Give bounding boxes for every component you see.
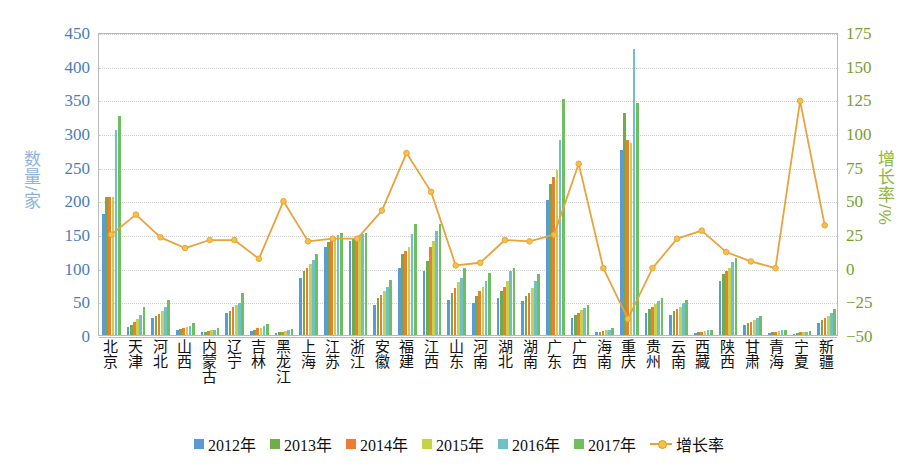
growth-rate-polyline — [111, 101, 824, 319]
y-axis-right-ticks: 1751501251007550250−25−50 — [846, 0, 906, 472]
growth-rate-point-福建 — [404, 150, 410, 156]
x-axis-labels: 北京天津河北山西内蒙古辽宁吉林黑龙江上海江苏浙江安徽福建江西山东河南湖北湖南广东… — [98, 339, 838, 429]
growth-rate-point-重庆 — [625, 316, 631, 322]
x-axis-label-青海: 青海 — [769, 339, 784, 369]
y-right-tick-0: 175 — [846, 25, 906, 42]
legend-swatch-icon — [346, 439, 356, 449]
y-left-tick-4: 250 — [40, 160, 90, 177]
growth-rate-point-广西 — [576, 161, 582, 167]
legend-line-marker-icon — [650, 439, 672, 449]
chart-canvas: 数量/家 增长率/% 450400350300250200150100500 1… — [0, 0, 918, 472]
legend-item-2017年[interactable]: 2017年 — [574, 432, 636, 456]
y-left-tick-3: 300 — [40, 126, 90, 143]
x-axis-label-福建: 福建 — [399, 339, 414, 369]
growth-rate-point-海南 — [601, 265, 607, 271]
y-left-tick-5: 200 — [40, 193, 90, 210]
growth-rate-point-宁夏 — [797, 98, 803, 104]
growth-rate-point-河南 — [478, 260, 484, 266]
legend-item-2016年[interactable]: 2016年 — [498, 432, 560, 456]
growth-rate-point-辽宁 — [232, 237, 238, 243]
x-axis-label-江西: 江西 — [424, 339, 439, 369]
x-axis-label-安徽: 安徽 — [374, 339, 389, 369]
y-left-tick-7: 100 — [40, 261, 90, 278]
gridline — [99, 337, 837, 338]
x-axis-label-天津: 天津 — [128, 339, 143, 369]
legend-label: 2017年 — [588, 432, 636, 456]
legend-label: 增长率 — [676, 432, 724, 456]
growth-rate-point-广东 — [551, 232, 557, 238]
growth-rate-point-湖南 — [527, 239, 533, 245]
chart-legend: 2012年2013年2014年2015年2016年2017年增长率 — [0, 432, 918, 456]
x-axis-label-辽宁: 辽宁 — [226, 339, 241, 369]
x-axis-label-重庆: 重庆 — [621, 339, 636, 369]
growth-rate-point-浙江 — [355, 236, 361, 242]
growth-rate-point-安徽 — [379, 208, 385, 214]
x-axis-label-西藏: 西藏 — [695, 339, 710, 369]
y-right-tick-7: 0 — [846, 261, 906, 278]
x-axis-label-河南: 河南 — [473, 339, 488, 369]
growth-rate-point-吉林 — [256, 256, 262, 262]
y-left-tick-2: 350 — [40, 92, 90, 109]
growth-rate-point-黑龙江 — [281, 198, 287, 204]
legend-label: 2012年 — [208, 432, 256, 456]
x-axis-label-广西: 广西 — [572, 339, 587, 369]
y-right-tick-6: 25 — [846, 227, 906, 244]
y-right-tick-8: −25 — [846, 294, 906, 311]
x-axis-label-云南: 云南 — [670, 339, 685, 369]
legend-item-2015年[interactable]: 2015年 — [422, 432, 484, 456]
growth-rate-line — [99, 34, 837, 335]
x-axis-label-陕西: 陕西 — [720, 339, 735, 369]
growth-rate-point-天津 — [133, 212, 139, 218]
x-axis-label-黑龙江: 黑龙江 — [276, 339, 291, 384]
x-axis-label-湖北: 湖北 — [498, 339, 513, 369]
growth-rate-point-上海 — [305, 239, 311, 245]
legend-item-2012年[interactable]: 2012年 — [194, 432, 256, 456]
x-axis-label-山东: 山东 — [448, 339, 463, 369]
legend-item-增长率[interactable]: 增长率 — [650, 432, 724, 456]
legend-label: 2016年 — [512, 432, 560, 456]
x-axis-label-浙江: 浙江 — [350, 339, 365, 369]
plot-area — [98, 33, 838, 336]
y-right-tick-2: 125 — [846, 92, 906, 109]
y-left-tick-1: 400 — [40, 59, 90, 76]
x-axis-label-新疆: 新疆 — [818, 339, 833, 369]
y-left-tick-9: 0 — [40, 328, 90, 345]
growth-rate-point-贵州 — [650, 265, 656, 271]
legend-label: 2014年 — [360, 432, 408, 456]
x-axis-label-海南: 海南 — [596, 339, 611, 369]
growth-rate-point-甘肃 — [748, 259, 754, 265]
legend-swatch-icon — [270, 439, 280, 449]
x-axis-label-北京: 北京 — [103, 339, 118, 369]
growth-rate-point-云南 — [674, 236, 680, 242]
growth-rate-point-青海 — [773, 265, 779, 271]
growth-rate-point-新疆 — [822, 223, 828, 229]
y-right-tick-5: 50 — [846, 193, 906, 210]
growth-rate-point-江苏 — [330, 236, 336, 242]
legend-swatch-icon — [498, 439, 508, 449]
y-right-tick-4: 75 — [846, 160, 906, 177]
x-axis-label-河北: 河北 — [152, 339, 167, 369]
x-axis-label-宁夏: 宁夏 — [794, 339, 809, 369]
x-axis-label-湖南: 湖南 — [522, 339, 537, 369]
legend-swatch-icon — [194, 439, 204, 449]
legend-item-2014年[interactable]: 2014年 — [346, 432, 408, 456]
x-axis-label-广东: 广东 — [547, 339, 562, 369]
y-left-tick-0: 450 — [40, 25, 90, 42]
legend-item-2013年[interactable]: 2013年 — [270, 432, 332, 456]
x-axis-label-甘肃: 甘肃 — [744, 339, 759, 369]
growth-rate-point-江西 — [428, 189, 434, 195]
growth-rate-point-山西 — [182, 245, 188, 251]
y-left-tick-8: 50 — [40, 294, 90, 311]
y-left-tick-6: 150 — [40, 227, 90, 244]
growth-rate-point-西藏 — [699, 228, 705, 234]
growth-rate-point-山东 — [453, 263, 459, 269]
x-axis-label-内蒙古: 内蒙古 — [202, 339, 217, 384]
growth-rate-point-北京 — [109, 232, 115, 238]
x-axis-label-江苏: 江苏 — [325, 339, 340, 369]
legend-swatch-icon — [574, 439, 584, 449]
legend-label: 2015年 — [436, 432, 484, 456]
x-axis-label-吉林: 吉林 — [251, 339, 266, 369]
legend-label: 2013年 — [284, 432, 332, 456]
x-axis-label-上海: 上海 — [300, 339, 315, 369]
y-axis-left-ticks: 450400350300250200150100500 — [40, 0, 90, 472]
